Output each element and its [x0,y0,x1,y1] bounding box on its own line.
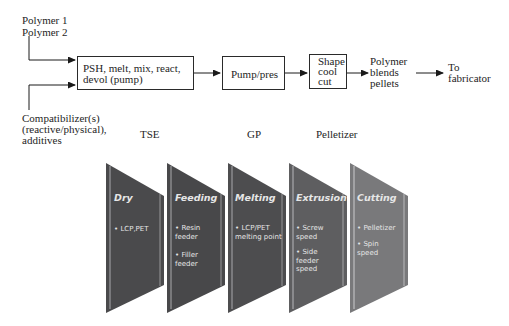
stage-title-extrusion: Extrusion [296,192,347,203]
process-box-shape-line3: cut [318,76,331,86]
stage-item: • Pelletizer [357,224,403,233]
polymer-2-label: Polymer 2 [22,26,68,38]
equipment-label-tse: TSE [140,128,160,140]
stage-item: • Side feeder speed [296,248,336,274]
compatibilizer-input-arrow [29,85,75,110]
stage-title-dry: Dry [114,192,133,203]
stage-item: • Resin feeder [175,224,219,241]
polymer-input-arrow [29,36,75,60]
stage-item: • Spin speed [357,240,397,257]
stage-item: • LCP/PET melting point [235,224,283,241]
stage-title-melting: Melting [235,192,276,203]
stage-title-cutting: Cutting [357,192,397,203]
process-box-shape: Shape cool cut [309,54,347,89]
stage-item: • LCP,PET [114,225,149,234]
process-box-psh: PSH, melt, mix, react, devol (pump) [77,56,194,90]
stage-item: • Screw speed [296,224,336,241]
process-box-pump: Pump/pres [222,56,285,90]
process-box-psh-line2: devol (pump) [83,73,143,85]
equipment-label-pelletizer: Pelletizer [316,128,358,140]
equipment-label-gp: GP [247,128,261,140]
stage-panel-dry [106,163,164,313]
stage-title-feeding: Feeding [175,192,217,203]
stage-item: • Filler feeder [175,251,219,268]
flow-connectors [0,0,509,326]
compatibilizer-label-3: additives [22,134,62,146]
polymer-1-label: Polymer 1 [22,14,68,26]
destination-label-2: fabricator [448,72,491,84]
output-label-3: pellets [370,77,399,89]
process-box-pump-line1: Pump/pres [231,68,278,80]
stage-panel-cutting [350,163,408,313]
